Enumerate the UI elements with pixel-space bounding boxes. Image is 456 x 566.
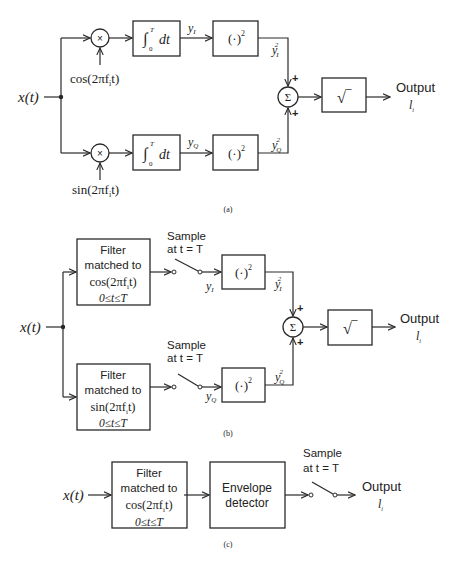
sampler-switch-c[interactable] [312, 482, 333, 494]
output-label-a: Output [396, 80, 435, 95]
svg-text:+: + [297, 336, 303, 348]
svg-text:Sample: Sample [167, 230, 206, 242]
svg-text:+: + [292, 107, 298, 119]
sample-time-c: at t = T [303, 462, 339, 474]
svg-text:0≤t≤T: 0≤t≤T [135, 516, 165, 528]
svg-text:dt: dt [159, 147, 171, 162]
envelope-detector [210, 462, 285, 528]
svg-text:dt: dt [159, 32, 171, 47]
sqrt-icon: √‾ [337, 89, 352, 106]
yi-label: yI [187, 21, 196, 36]
svg-text:0: 0 [149, 160, 153, 168]
panel-c: x(t) Filter matched to cos(2πfit) 0≤t≤T … [62, 447, 401, 549]
svg-text:Filter: Filter [136, 467, 162, 479]
input-label-b: x(t) [19, 319, 41, 336]
svg-text:0≤t≤T: 0≤t≤T [99, 417, 129, 429]
svg-text:yI: yI [205, 279, 214, 294]
svg-text:0: 0 [149, 45, 153, 53]
caption-a: (a) [224, 205, 233, 214]
svg-text:Filter: Filter [100, 244, 126, 256]
svg-text:yQ: yQ [205, 389, 216, 404]
output-var-b: li [416, 329, 421, 344]
svg-text:yI2: yI2 [274, 275, 282, 293]
svg-text:matched to: matched to [121, 482, 178, 494]
input-label-c: x(t) [62, 487, 84, 504]
svg-text:cos(2πfit): cos(2πfit) [125, 498, 172, 514]
panel-a: x(t) × cos(2πfit) ∫ T 0 dt yI (·)2 yI2 +… [17, 21, 435, 214]
svg-text:matched to: matched to [85, 259, 142, 271]
sin-reference-label: sin(2πfit) [72, 182, 119, 199]
output-label-b: Output [400, 311, 439, 326]
cos-reference-label: cos(2πfit) [70, 71, 119, 88]
sqrt-icon: √‾ [343, 320, 358, 337]
input-label-a: x(t) [17, 89, 39, 106]
sigma-icon: Σ [285, 91, 291, 103]
svg-text:Sample: Sample [303, 447, 342, 459]
yq-label: yQ [187, 135, 198, 150]
svg-text:Filter: Filter [100, 369, 126, 381]
svg-text:Envelope: Envelope [222, 481, 272, 495]
caption-c: (c) [224, 540, 233, 549]
output-var-a: li [409, 98, 414, 113]
yi2-label: yI2 [271, 41, 279, 59]
svg-text:sin(2πfit): sin(2πfit) [90, 400, 135, 416]
integrator-top [133, 21, 180, 56]
sampler-switch-top[interactable] [175, 259, 198, 271]
sigma-icon: Σ [290, 321, 296, 333]
sample-time-top: at t = T [167, 243, 203, 255]
svg-text:detector: detector [225, 496, 268, 510]
svg-text:cos(2πfit): cos(2πfit) [89, 275, 136, 291]
svg-text:Sample: Sample [167, 339, 206, 351]
integrator-bottom [133, 135, 180, 170]
svg-text:0≤t≤T: 0≤t≤T [99, 292, 129, 304]
yq2-label: yQ2 [271, 136, 281, 154]
sample-time-bottom: at t = T [167, 352, 203, 364]
svg-text:+: + [297, 302, 303, 314]
multiply-icon: × [97, 33, 103, 44]
svg-text:yQ2: yQ2 [274, 368, 284, 386]
receiver-block-diagrams: x(t) × cos(2πfit) ∫ T 0 dt yI (·)2 yI2 +… [0, 0, 456, 566]
caption-b: (b) [223, 429, 233, 438]
output-var-c: li [378, 497, 383, 512]
output-label-c: Output [362, 479, 401, 494]
svg-text:+: + [292, 72, 298, 84]
svg-text:matched to: matched to [85, 384, 142, 396]
multiply-icon: × [97, 148, 103, 159]
panel-b: x(t) Filter matched to cos(2πfit) 0≤t≤T … [19, 230, 439, 438]
sampler-switch-bottom[interactable] [178, 374, 198, 386]
